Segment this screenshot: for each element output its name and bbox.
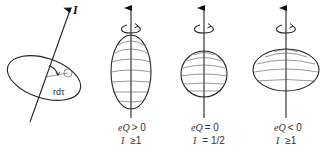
shape-prolate: eQ> 0 I≥1	[111, 8, 151, 146]
eq-label: eQ> 0	[118, 122, 146, 133]
spin-label: I≥1	[120, 135, 142, 146]
spin-label: I= 1/2	[192, 135, 225, 146]
volume-element-label: rdτ	[53, 87, 65, 97]
rotation-arrowhead-icon	[290, 24, 294, 29]
left-panel: I rdτ	[2, 3, 87, 122]
spin-label: I≥1	[275, 135, 297, 146]
rotation-arrowhead-icon	[135, 24, 139, 29]
rotation-arrowhead-icon	[208, 24, 212, 29]
shape-sphere: eQ= 0 I= 1/2	[181, 8, 227, 146]
charge-ellipse	[2, 47, 87, 109]
eq-label: eQ< 0	[274, 122, 302, 133]
axis-label-I: I	[72, 3, 79, 17]
shape-oblate: eQ< 0 I≥1	[253, 8, 319, 146]
nuclear-shapes-diagram: I rdτ eQ> 0 I≥1	[0, 0, 327, 155]
eq-label: eQ= 0	[191, 122, 219, 133]
